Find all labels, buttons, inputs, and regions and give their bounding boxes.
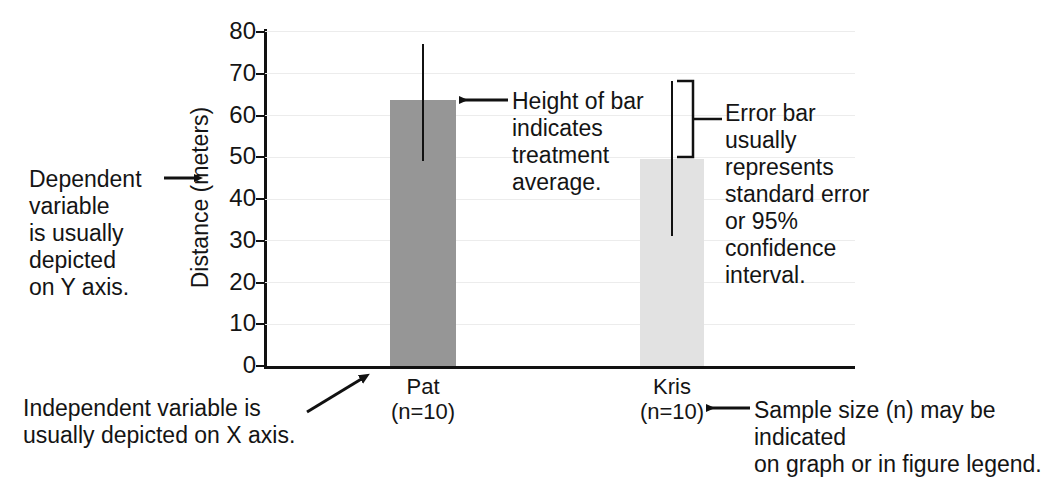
error-bar-pat (422, 44, 424, 161)
gridline (265, 324, 855, 325)
annotation-sample-size: Sample size (n) may be indicated on grap… (754, 397, 1064, 478)
gridline (265, 31, 855, 32)
category-label-pat: Pat (n=10) (338, 374, 508, 424)
y-tick-label-80: 80 (196, 19, 256, 43)
gridline (265, 73, 855, 74)
x-axis-line (264, 366, 855, 369)
annotation-independent-variable: Independent variable is usually depicted… (23, 395, 353, 449)
category-label-kris: Kris (n=10) (587, 374, 757, 424)
annotation-bar-height: Height of bar indicates treatment averag… (512, 88, 687, 196)
annotation-dependent-variable: Dependent variable is usually depicted o… (29, 166, 194, 301)
annotation-error-bar: Error bar usually represents standard er… (725, 100, 905, 289)
y-tick-label-0: 0 (196, 353, 256, 377)
